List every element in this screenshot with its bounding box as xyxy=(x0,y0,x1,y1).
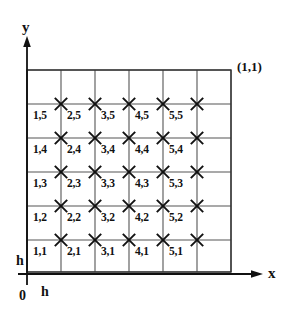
step-label-horizontal: h xyxy=(41,285,49,299)
y-axis-arrowhead xyxy=(23,36,31,47)
node-label-3-1: 3,1 xyxy=(101,246,115,258)
y-axis-label: y xyxy=(22,20,30,35)
node-label-1-3: 1,3 xyxy=(33,178,47,190)
node-label-4-5: 4,5 xyxy=(135,110,149,122)
node-label-4-2: 4,2 xyxy=(135,212,149,224)
node-label-3-2: 3,2 xyxy=(101,212,115,224)
node-label-2-4: 2,4 xyxy=(67,144,81,156)
node-label-4-1: 4,1 xyxy=(135,246,149,258)
mesh-canvas xyxy=(0,0,290,318)
node-label-5-2: 5,2 xyxy=(169,212,183,224)
mesh-diagram: 1,52,53,54,55,51,42,43,44,45,41,32,33,34… xyxy=(0,0,290,318)
y-axis xyxy=(23,36,31,285)
step-label-vertical: h xyxy=(16,254,24,268)
node-label-3-5: 3,5 xyxy=(101,110,115,122)
node-label-1-4: 1,4 xyxy=(33,144,47,156)
node-label-1-2: 1,2 xyxy=(33,212,47,224)
node-label-5-4: 5,4 xyxy=(169,144,183,156)
node-label-1-5: 1,5 xyxy=(33,110,47,122)
origin-label: 0 xyxy=(19,289,26,303)
node-label-2-3: 2,3 xyxy=(67,178,81,190)
node-label-5-5: 5,5 xyxy=(169,110,183,122)
corner-coordinate-label: (1,1) xyxy=(237,60,262,73)
node-label-2-1: 2,1 xyxy=(67,246,81,258)
node-label-2-5: 2,5 xyxy=(67,110,81,122)
x-axis-label: x xyxy=(268,266,276,281)
node-label-3-3: 3,3 xyxy=(101,178,115,190)
node-label-2-2: 2,2 xyxy=(67,212,81,224)
node-label-4-4: 4,4 xyxy=(135,144,149,156)
node-label-1-1: 1,1 xyxy=(33,246,47,258)
node-label-4-3: 4,3 xyxy=(135,178,149,190)
node-label-5-1: 5,1 xyxy=(169,246,183,258)
node-label-3-4: 3,4 xyxy=(101,144,115,156)
x-axis-arrowhead xyxy=(251,270,263,278)
node-label-5-3: 5,3 xyxy=(169,178,183,190)
